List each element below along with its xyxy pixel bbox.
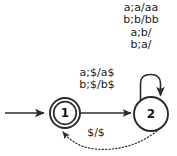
state-diagram-canvas: a;a/aa b;b/bb a;b/ b;a/ a;$/a$ b;$/b$ $/…: [0, 0, 177, 156]
self-loop-label-group: a;a/aa b;b/bb a;b/ b;a/: [108, 2, 174, 52]
state-2-label: 2: [141, 107, 161, 121]
edge-2-to-1-label: $/$: [78, 127, 114, 139]
self-loop-label-line-2: b;b/bb: [108, 14, 174, 26]
edge-1-to-2-label-line-2: b;$/b$: [68, 79, 126, 91]
state-1-label: 1: [55, 106, 75, 120]
self-loop-label-line-4: b;a/: [108, 39, 174, 51]
edge-1-to-2-label-group: a;$/a$ b;$/b$: [68, 67, 126, 92]
